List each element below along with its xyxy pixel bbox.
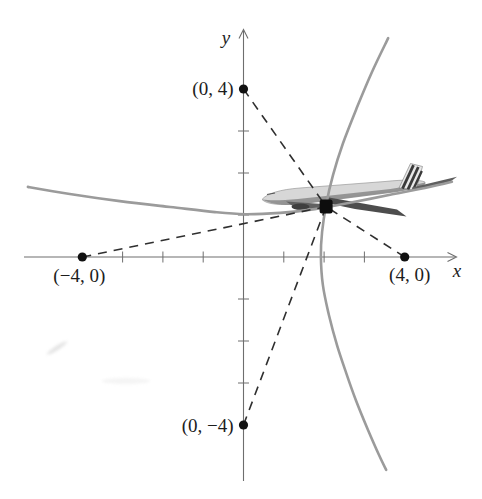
plane-position-dot — [320, 200, 333, 214]
x-axis-label: x — [452, 260, 462, 281]
point-coordinate-label: (−4, 0) — [53, 265, 105, 287]
point-coordinate-label: (0, 4) — [192, 78, 233, 100]
paper-smudge — [102, 378, 150, 384]
focus-point-dot — [239, 420, 248, 429]
paper-smudge — [46, 340, 69, 357]
focal-distance-dashed-line — [244, 207, 327, 425]
y-axis-label: y — [220, 27, 231, 48]
hyperbola-navigation-figure: (0, 4)(−4, 0)(4, 0)(0, −4)xy — [0, 0, 482, 499]
focus-point-dot — [78, 252, 87, 261]
point-coordinate-label: (4, 0) — [389, 264, 430, 286]
airplane-illustration — [262, 164, 457, 217]
figure-canvas: (0, 4)(−4, 0)(4, 0)(0, −4)xy — [0, 0, 482, 499]
focal-distance-dashed-line — [244, 89, 327, 207]
point-coordinate-label: (0, −4) — [182, 415, 234, 437]
focus-point-dot — [239, 84, 248, 93]
focus-point-dot — [400, 252, 409, 261]
hyperbola-branch-vertical — [321, 38, 388, 470]
focal-distance-dashed-line — [82, 207, 326, 257]
